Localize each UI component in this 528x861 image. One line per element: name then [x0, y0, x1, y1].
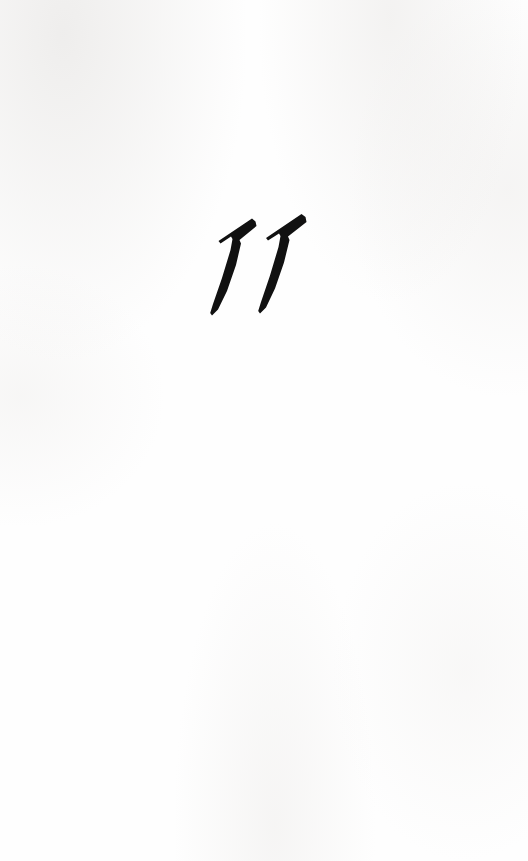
- numeral-one-second-icon: [258, 214, 306, 314]
- chapter-number-glyphs: [209, 212, 319, 324]
- paper-grain-texture: [0, 0, 528, 861]
- numeral-one-first-icon: [210, 219, 256, 316]
- book-page: 11: [0, 0, 528, 861]
- chapter-number: 11: [0, 212, 528, 324]
